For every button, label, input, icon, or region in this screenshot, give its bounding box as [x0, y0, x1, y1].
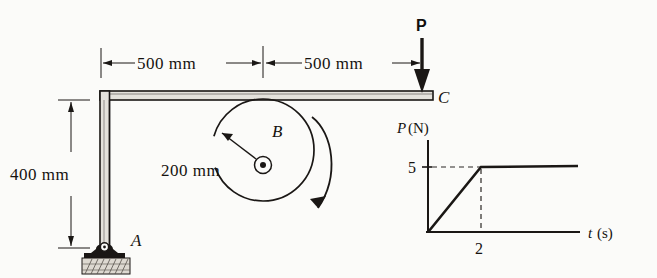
column-body — [100, 91, 110, 249]
dimension-span-left: 500 mm — [101, 46, 263, 78]
graph-xtick-label-2: 2 — [475, 240, 483, 257]
label-point-c: C — [438, 88, 450, 107]
vertical-column — [100, 91, 110, 249]
dimension-label-500-right: 500 mm — [304, 54, 363, 73]
graph-ylabel-unit: (N) — [408, 120, 429, 137]
dimension-label-400: 400 mm — [10, 165, 69, 184]
graph-ytick-label-5: 5 — [408, 159, 416, 176]
rotation-arc — [312, 117, 331, 208]
label-force-p: P — [416, 17, 427, 34]
arrowhead-up — [68, 102, 74, 112]
disk-b: 200 mm B — [161, 99, 314, 201]
support-base-plate — [84, 253, 125, 258]
load-time-graph: 5 2 P (N) t (s) — [396, 120, 613, 257]
dimension-label-500-left: 500 mm — [137, 54, 196, 73]
arrowhead-down — [68, 236, 74, 246]
arrowhead-mid-inward-left — [252, 60, 261, 66]
graph-data-series — [429, 166, 578, 231]
dimension-span-right: 500 mm — [266, 48, 422, 78]
disk-center-dot — [260, 162, 266, 168]
pin-center-dot — [103, 246, 106, 249]
ground-block — [82, 258, 130, 274]
graph-xlabel-symbol: t — [588, 225, 593, 241]
graph-xlabel-unit: (s) — [597, 225, 613, 242]
label-point-a: A — [130, 231, 142, 250]
arrowhead-left-inward — [103, 60, 112, 66]
rotation-arrowhead — [310, 196, 326, 208]
dimension-column-height: 400 mm — [10, 100, 90, 248]
disk-rim — [212, 99, 314, 201]
label-point-b: B — [272, 122, 283, 141]
graph-ylabel-symbol: P — [396, 120, 406, 136]
mechanics-figure: 500 mm 500 mm 400 mm — [0, 0, 657, 278]
arrowhead-right-inward — [411, 60, 420, 66]
force-arrowhead — [414, 69, 430, 93]
arrowhead-mid-inward-right — [266, 60, 275, 66]
pin-support-a: A — [82, 231, 142, 274]
figure-canvas: 500 mm 500 mm 400 mm — [0, 0, 657, 278]
dimension-label-200: 200 mm — [161, 161, 220, 180]
